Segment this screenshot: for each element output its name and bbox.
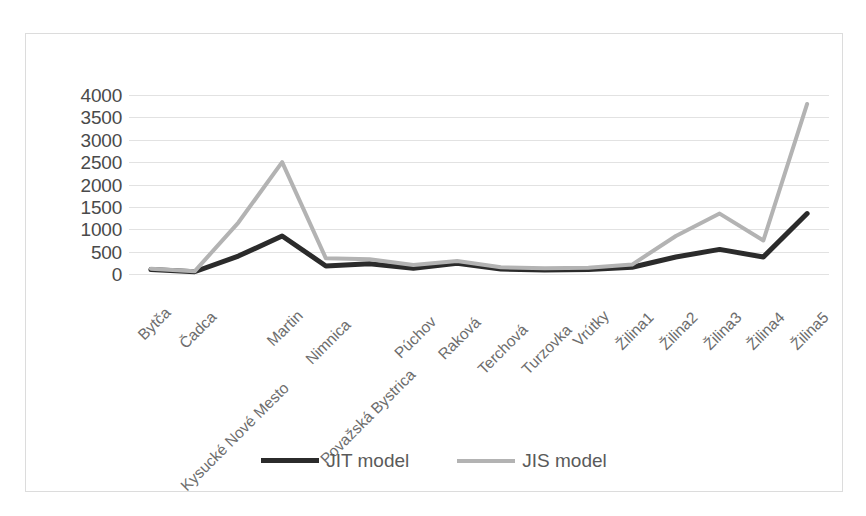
y-tick-label: 500 <box>56 243 122 262</box>
x-axis: BytčaČadcaKysucké Nové MestoMartinNimnic… <box>129 277 829 397</box>
legend-item[interactable]: JIT model <box>261 451 409 470</box>
legend-line-swatch <box>261 458 319 463</box>
x-tick-label: Bytča <box>162 277 200 315</box>
x-tick-label-text: Žilina4 <box>744 309 787 352</box>
x-tick-label-text: Žilina3 <box>701 309 744 352</box>
y-tick-label: 3000 <box>56 131 122 150</box>
x-tick-label: Čadca <box>208 277 251 320</box>
x-tick-label-text: Žilina1 <box>613 309 656 352</box>
series-lines <box>129 95 829 274</box>
y-tick-label: 2500 <box>56 153 122 172</box>
legend-line-swatch <box>457 459 515 463</box>
y-axis: 40003500300025002000150010005000 <box>56 79 122 290</box>
x-tick-label: Žilina5 <box>821 277 864 320</box>
y-tick-label: 2000 <box>56 176 122 195</box>
y-tick-label: 4000 <box>56 86 122 105</box>
x-tick-label-text: Kysucké Nové Mesto <box>178 380 292 494</box>
chart-container: 40003500300025002000150010005000 BytčaČa… <box>25 33 843 492</box>
legend-item[interactable]: JIS model <box>457 451 606 470</box>
x-tick-label-text: Bytča <box>135 304 173 342</box>
legend-label: JIT model <box>326 451 409 470</box>
x-tick-label-text: Martin <box>264 307 305 348</box>
x-tick-label-text: Nimnica <box>303 317 354 368</box>
x-tick-label-text: Žilina5 <box>788 309 831 352</box>
y-tick-label: 3500 <box>56 108 122 127</box>
series-line <box>151 104 807 271</box>
x-tick-label: Nimnica <box>342 277 393 328</box>
plot-area <box>129 95 829 274</box>
legend-label: JIS model <box>522 451 606 470</box>
x-tick-label-text: Žilina2 <box>657 309 700 352</box>
chart-legend: JIT modelJIS model <box>26 451 842 470</box>
gridline <box>129 274 829 275</box>
y-tick-label: 1000 <box>56 220 122 239</box>
y-tick-label: 0 <box>56 265 122 284</box>
x-tick-label-text: Čadca <box>176 309 219 352</box>
y-tick-label: 1500 <box>56 198 122 217</box>
x-tick-label: Martin <box>295 277 336 318</box>
